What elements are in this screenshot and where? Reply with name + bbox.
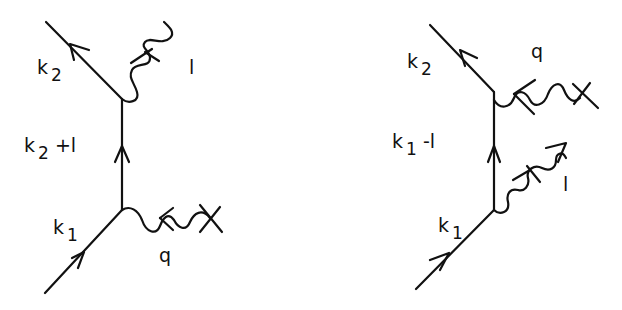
arrow-icon <box>145 52 159 61</box>
arrow-icon <box>460 50 477 66</box>
label-propagator: k1 -l <box>392 132 435 158</box>
label-incoming-k1: k1 <box>53 218 78 244</box>
label-suffix: -l <box>417 130 435 152</box>
external-field-cross-icon <box>200 205 222 232</box>
label-base: k <box>53 216 64 238</box>
feynman-diagrams <box>0 0 622 310</box>
label-subscript: 1 <box>406 139 417 159</box>
label-propagator: k2 +l <box>24 136 76 162</box>
label-boson-l: l <box>189 58 194 77</box>
arrow-icon <box>430 253 449 270</box>
label-suffix: +l <box>49 134 76 156</box>
label-subscript: 2 <box>51 65 62 85</box>
label-subscript: 1 <box>67 225 78 245</box>
boson-line-l <box>494 154 566 213</box>
label-base: k <box>407 50 418 72</box>
arrow-icon <box>72 252 84 268</box>
label-outgoing-k2: k2 <box>407 52 432 78</box>
label-base: k <box>37 56 48 78</box>
arrow-icon <box>70 44 89 60</box>
label-base: k <box>392 130 403 152</box>
arrow-icon <box>514 80 535 94</box>
label-subscript: 2 <box>38 143 49 163</box>
label-boson-q: q <box>159 246 171 265</box>
right-diagram <box>416 25 598 289</box>
boson-line-q <box>494 84 580 106</box>
label-subscript: 2 <box>421 59 432 79</box>
label-incoming-k1: k1 <box>438 216 463 242</box>
boson-line-q <box>122 208 210 232</box>
label-subscript: 1 <box>452 223 463 243</box>
label-boson-l: l <box>563 175 568 194</box>
label-boson-q: q <box>531 42 543 61</box>
label-outgoing-k2: k2 <box>37 58 62 84</box>
label-base: k <box>24 134 35 156</box>
arrow-icon <box>514 94 534 114</box>
label-base: k <box>438 214 449 236</box>
external-field-cross-icon <box>573 83 598 108</box>
boson-line-l <box>122 22 172 102</box>
